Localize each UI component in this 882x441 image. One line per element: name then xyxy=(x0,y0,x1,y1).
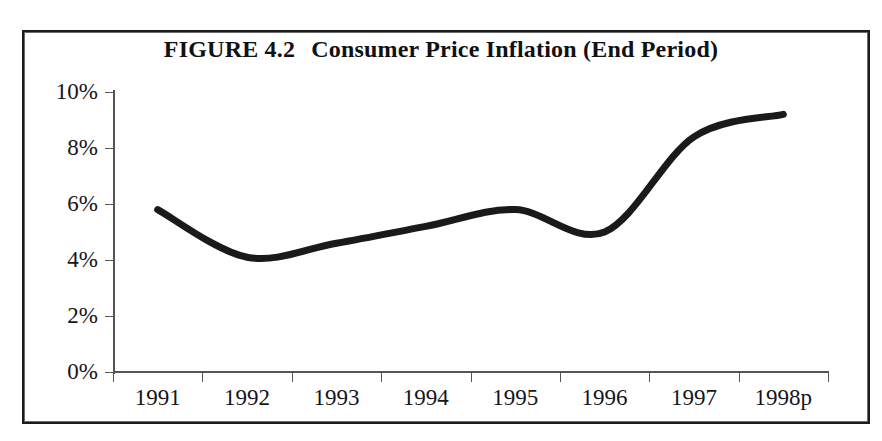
x-axis-tick-label: 1994 xyxy=(380,386,472,409)
x-axis-tick-label: 1991 xyxy=(112,386,204,409)
figure-container: FIGURE 4.2Consumer Price Inflation (End … xyxy=(0,0,882,441)
y-axis-tick xyxy=(105,260,114,261)
figure-label: FIGURE 4.2 xyxy=(164,36,295,62)
x-axis-tick xyxy=(471,372,472,382)
y-axis-tick-label: 6% xyxy=(26,192,98,215)
x-axis-tick-label: 1996 xyxy=(559,386,651,409)
x-axis-tick-label: 1993 xyxy=(290,386,382,409)
x-axis-tick xyxy=(828,372,829,382)
y-axis-tick-label: 10% xyxy=(26,80,98,103)
x-axis-tick xyxy=(649,372,650,382)
y-axis-tick xyxy=(105,316,114,317)
y-axis-tick-label: 4% xyxy=(26,248,98,271)
page-title: FIGURE 4.2Consumer Price Inflation (End … xyxy=(0,36,882,63)
x-axis-tick xyxy=(202,372,203,382)
x-axis-tick xyxy=(560,372,561,382)
y-axis-tick-label: 8% xyxy=(26,136,98,159)
x-axis-tick-label: 1995 xyxy=(469,386,561,409)
x-axis-tick-label: 1992 xyxy=(201,386,293,409)
y-axis-line xyxy=(113,90,115,374)
x-axis-tick-label: 1997 xyxy=(648,386,740,409)
figure-title-text: Consumer Price Inflation (End Period) xyxy=(311,36,718,62)
figure-border xyxy=(22,30,870,424)
y-axis-tick xyxy=(105,204,114,205)
y-axis-tick xyxy=(105,148,114,149)
y-axis-tick-label: 2% xyxy=(26,304,98,327)
y-axis-tick-label: 0% xyxy=(26,360,98,383)
x-axis-tick xyxy=(292,372,293,382)
x-axis-tick xyxy=(381,372,382,382)
x-axis-tick xyxy=(739,372,740,382)
x-axis-tick xyxy=(113,372,114,382)
y-axis-tick xyxy=(105,92,114,93)
x-axis-tick-label: 1998p xyxy=(737,386,829,409)
